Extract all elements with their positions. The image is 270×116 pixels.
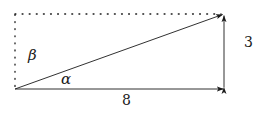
length-label-base: 8 [122, 93, 131, 107]
geometry-figure: β α 3 8 [0, 0, 270, 116]
angle-label-beta: β [28, 48, 37, 63]
length-label-height: 3 [244, 35, 253, 49]
triangle-diagram [0, 0, 270, 116]
hypotenuse-line [15, 15, 223, 90]
angle-label-alpha: α [61, 72, 71, 87]
